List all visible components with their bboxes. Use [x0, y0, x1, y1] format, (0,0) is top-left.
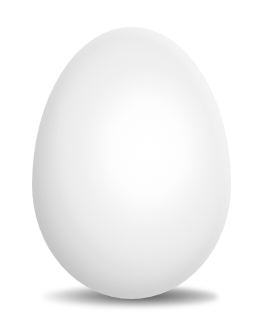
egg-scene	[0, 0, 254, 328]
egg	[32, 27, 231, 299]
